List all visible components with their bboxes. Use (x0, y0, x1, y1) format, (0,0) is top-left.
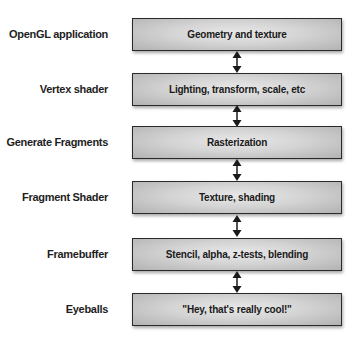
stage-label: Fragment Shader (0, 181, 108, 214)
stage-box: Texture, shading (132, 181, 342, 214)
double-arrow-icon (231, 271, 243, 293)
double-arrow-icon (231, 105, 243, 127)
stage-vertex-shader: Vertex shader Lighting, transform, scale… (0, 73, 362, 106)
stage-eyeballs: Eyeballs "Hey, that's really cool!" (0, 293, 362, 326)
stage-fragment-shader: Fragment Shader Texture, shading (0, 181, 362, 214)
stage-box: Lighting, transform, scale, etc (132, 73, 342, 106)
stage-label: Framebuffer (0, 238, 108, 271)
stage-opengl-application: OpenGL application Geometry and texture (0, 18, 362, 51)
stage-label: Eyeballs (0, 293, 108, 326)
stage-box: Rasterization (132, 126, 342, 159)
stage-box: "Hey, that's really cool!" (132, 293, 342, 326)
stage-label: Generate Fragments (0, 126, 108, 159)
stage-box: Stencil, alpha, z-tests, blending (132, 238, 342, 271)
stage-generate-fragments: Generate Fragments Rasterization (0, 126, 362, 159)
stage-box: Geometry and texture (132, 18, 342, 51)
double-arrow-icon (231, 215, 243, 237)
double-arrow-icon (231, 51, 243, 73)
stage-framebuffer: Framebuffer Stencil, alpha, z-tests, ble… (0, 238, 362, 271)
stage-label: Vertex shader (0, 73, 108, 106)
stage-label: OpenGL application (0, 18, 108, 51)
double-arrow-icon (231, 159, 243, 181)
